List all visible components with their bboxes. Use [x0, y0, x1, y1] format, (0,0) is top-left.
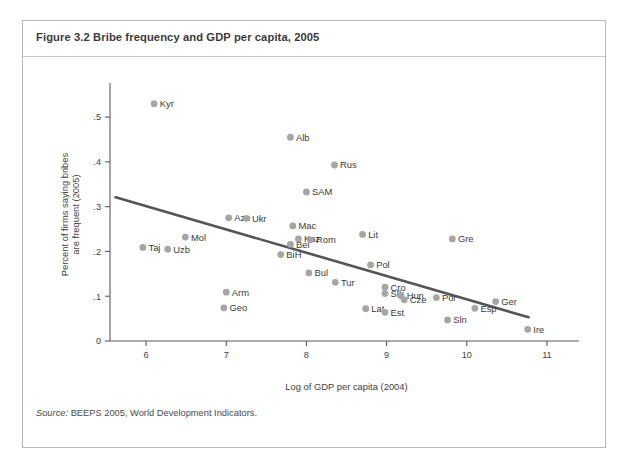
point-marker [449, 236, 456, 243]
data-point-cze[interactable]: Cze [401, 294, 427, 305]
scatter-plot: 0.1.2.3.4.567891011 KyrTajUzbMolArmGeoAz… [0, 0, 628, 469]
point-marker [305, 270, 312, 277]
point-label: Uzb [173, 244, 190, 255]
point-marker [243, 215, 250, 222]
point-label: Ger [501, 296, 517, 307]
point-marker [225, 214, 232, 221]
x-tick-label: 6 [144, 350, 149, 360]
y-tick-label: .4 [93, 157, 101, 167]
data-point-bul[interactable]: Bul [305, 267, 328, 278]
x-axis-title: Log of GDP per capita (2004) [285, 381, 407, 392]
point-marker [444, 317, 451, 324]
point-label: Alb [296, 132, 310, 143]
point-marker [362, 305, 369, 312]
point-label: Ire [533, 324, 544, 335]
data-point-por[interactable]: Por [433, 292, 457, 303]
data-point-tur[interactable]: Tur [332, 277, 355, 288]
x-tick-label: 11 [542, 350, 552, 360]
x-tick-label: 7 [224, 350, 229, 360]
point-label: BiH [286, 249, 301, 260]
data-point-pol[interactable]: Pol [367, 259, 390, 270]
data-point-mol[interactable]: Mol [182, 232, 206, 243]
point-label: Taj [148, 242, 160, 253]
point-marker [139, 244, 146, 251]
point-marker [223, 289, 230, 296]
data-point-est[interactable]: Est [382, 307, 405, 318]
point-label: Bul [314, 267, 328, 278]
point-label: Pol [376, 259, 390, 270]
x-tick-label: 9 [384, 350, 389, 360]
data-point-gre[interactable]: Gre [449, 233, 474, 244]
y-tick-label: 0 [96, 336, 101, 346]
point-marker [401, 296, 408, 303]
data-point-sam[interactable]: SAM [303, 186, 333, 197]
point-label: Kyr [160, 98, 174, 109]
point-marker [220, 304, 227, 311]
data-point-arm[interactable]: Arm [223, 287, 249, 298]
point-marker [492, 298, 499, 305]
y-axis-title-line1: Percent of firms saying bribes [59, 152, 70, 276]
point-label: Arm [232, 287, 249, 298]
point-marker [471, 305, 478, 312]
point-marker [359, 231, 366, 238]
point-label: Ukr [252, 213, 267, 224]
point-marker [287, 134, 294, 141]
point-marker [303, 188, 310, 195]
y-tick-label: .1 [93, 292, 101, 302]
y-tick-label: .3 [93, 202, 101, 212]
point-marker [151, 100, 158, 107]
point-marker [295, 236, 302, 243]
point-marker [382, 284, 389, 291]
data-point-bih[interactable]: BiH [277, 249, 301, 260]
data-point-esp[interactable]: Esp [471, 303, 496, 314]
data-point-alb[interactable]: Alb [287, 132, 310, 143]
y-axis-title-line2: are frequent (2005) [70, 174, 81, 254]
data-point-mac[interactable]: Mac [289, 220, 316, 231]
data-point-rus[interactable]: Rus [331, 159, 357, 170]
data-point-uzb[interactable]: Uzb [164, 244, 190, 255]
y-tick-label: .5 [93, 112, 101, 122]
point-label: Gre [458, 233, 474, 244]
x-tick-label: 10 [462, 350, 472, 360]
data-point-geo[interactable]: Geo [220, 302, 247, 313]
data-point-ire[interactable]: Ire [524, 324, 544, 335]
point-label: Sln [453, 314, 467, 325]
axis-titles: Log of GDP per capita (2004)Percent of f… [59, 152, 408, 392]
point-label: Est [391, 307, 405, 318]
point-marker [287, 241, 294, 248]
x-tick-label: 8 [304, 350, 309, 360]
regression-line [116, 197, 529, 317]
y-tick-label: .2 [93, 247, 101, 257]
point-label: Tur [341, 277, 355, 288]
point-marker [433, 294, 440, 301]
point-marker [307, 236, 314, 243]
data-points: KyrTajUzbMolArmGeoAzeUkrAlbBiHBelMacSAMK… [139, 98, 544, 335]
point-label: Rom [316, 234, 336, 245]
point-label: Mol [191, 232, 206, 243]
point-marker [289, 223, 296, 230]
point-marker [332, 279, 339, 286]
point-label: Lit [368, 229, 378, 240]
data-point-lit[interactable]: Lit [359, 229, 378, 240]
point-marker [367, 261, 374, 268]
data-point-taj[interactable]: Taj [139, 242, 160, 253]
point-marker [164, 246, 171, 253]
point-label: SAM [312, 186, 333, 197]
data-point-lat[interactable]: Lat [362, 303, 384, 314]
point-label: Geo [229, 302, 247, 313]
point-label: Mac [298, 220, 316, 231]
point-label: Cze [410, 294, 427, 305]
trend-line [116, 197, 529, 317]
axes: 0.1.2.3.4.567891011 [93, 83, 579, 360]
point-label: Rus [340, 159, 357, 170]
point-marker [382, 309, 389, 316]
point-label: Por [442, 292, 457, 303]
point-marker [524, 326, 531, 333]
point-marker [382, 290, 389, 297]
point-marker [331, 162, 338, 169]
data-point-sln[interactable]: Sln [444, 314, 467, 325]
point-marker [277, 251, 284, 258]
data-point-kyr[interactable]: Kyr [151, 98, 174, 109]
point-marker [182, 234, 189, 241]
